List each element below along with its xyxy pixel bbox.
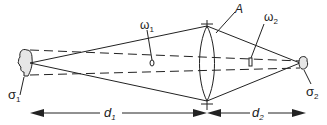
aperture-omega2 — [249, 58, 252, 66]
arrowhead-d1-left — [30, 109, 44, 117]
leader-A — [216, 12, 235, 33]
label-sigma1: σ1 — [8, 87, 21, 104]
leader-omega2 — [251, 24, 264, 58]
optics-diagram: σ1 ω1 A ω2 σ2 d1 d2 — [0, 0, 327, 125]
arrowhead-d2-left — [207, 109, 221, 117]
label-omega1: ω1 — [140, 18, 154, 34]
ray-upper-right — [207, 26, 300, 63]
label-d2: d2 — [252, 105, 264, 122]
diagram-canvas: σ1 ω1 A ω2 σ2 d1 d2 — [0, 0, 327, 125]
leader-sigma2 — [304, 70, 311, 84]
label-lens-A: A — [234, 2, 243, 16]
leader-omega1 — [147, 30, 152, 60]
ray-upper-left — [30, 26, 207, 63]
label-d1: d1 — [104, 105, 116, 122]
aperture-omega1 — [150, 60, 154, 66]
label-sigma2: σ2 — [306, 84, 319, 101]
arrowhead-d2-right — [292, 109, 306, 117]
lens-A — [200, 26, 215, 101]
ray-lower-left — [30, 63, 207, 101]
dashed-ray-upper — [30, 50, 300, 61]
arrowhead-d1-right — [193, 109, 207, 117]
label-omega2: ω2 — [264, 10, 278, 26]
object-sigma2 — [299, 57, 308, 70]
leader-sigma1 — [20, 77, 24, 95]
